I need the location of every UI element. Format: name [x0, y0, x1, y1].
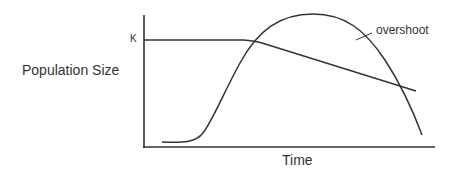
- y-axis-label: Population Size: [22, 62, 119, 78]
- x-axis-label: Time: [282, 152, 313, 168]
- k-tick-label: K: [130, 33, 137, 44]
- overshoot-annotation: overshoot: [376, 23, 429, 37]
